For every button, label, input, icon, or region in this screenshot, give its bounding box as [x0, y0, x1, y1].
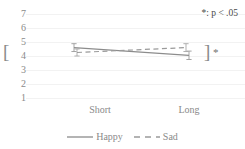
y-tick-label-5: 5: [8, 37, 26, 47]
y-tick-label-2: 2: [8, 79, 26, 89]
sad-error-bar-long: [183, 44, 188, 52]
x-tick-label-long: Long: [159, 104, 219, 116]
plot-area: * [ ] *: [26, 8, 245, 104]
p-value-note: *: p < .05: [202, 8, 239, 19]
legend-swatch-dashed-icon: [134, 133, 160, 141]
y-tick-label-3: 3: [8, 65, 26, 75]
legend-swatch-solid-icon: [67, 133, 93, 141]
y-tick-label-7: 7: [8, 9, 26, 19]
right-significance-star: *: [213, 47, 219, 58]
legend-label-sad: Sad: [163, 131, 178, 143]
y-axis: 7 6 5 4 3 2 1: [4, 0, 26, 149]
x-tick-label-short: Short: [70, 104, 130, 116]
y-tick-label-4: 4: [8, 51, 26, 61]
left-significance-bracket: [: [3, 42, 9, 61]
legend-item-happy: Happy: [67, 131, 123, 143]
legend: Happy Sad: [0, 128, 245, 146]
chart-container: 7 6 5 4 3 2 1: [0, 0, 245, 149]
legend-label-happy: Happy: [96, 131, 123, 143]
right-significance-bracket: ]: [204, 42, 210, 61]
legend-item-sad: Sad: [134, 131, 178, 143]
y-tick-label-6: 6: [8, 23, 26, 33]
y-tick-label-1: 1: [8, 93, 26, 103]
x-axis: Short Long: [26, 104, 245, 122]
